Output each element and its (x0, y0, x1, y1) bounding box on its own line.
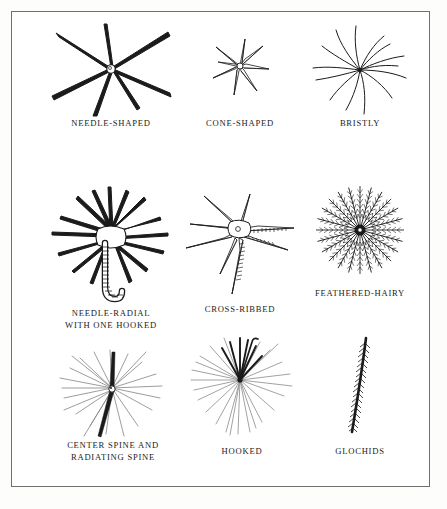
caption-line: NEEDLE-SHAPED (46, 118, 176, 130)
caption-line: NEEDLE-RADIAL (40, 308, 182, 320)
figure-hooked (190, 336, 294, 436)
needle-shaped-drawing (46, 20, 176, 118)
caption-hooked: HOOKED (190, 446, 294, 458)
caption-center-spine-and-radiating-spine: CENTER SPINE AND RADIATING SPINE (40, 440, 186, 463)
figure-glochids (332, 336, 388, 442)
caption-line: FEATHERED-HAIRY (305, 288, 415, 300)
caption-line: WITH ONE HOOKED (40, 320, 182, 332)
caption-needle-radial-with-one-hooked: NEEDLE-RADIAL WITH ONE HOOKED (40, 308, 182, 331)
caption-glochids: GLOCHIDS (310, 446, 410, 458)
figure-needle-radial-with-one-hooked (48, 183, 174, 305)
caption-feathered-hairy: FEATHERED-HAIRY (305, 288, 415, 300)
caption-line: CROSS-RIBBED (190, 304, 290, 316)
feathered-hairy-drawing (308, 184, 412, 280)
caption-cone-shaped: CONE-SHAPED (190, 118, 290, 130)
figure-center-spine-and-radiating-spine (58, 348, 166, 440)
figure-bristly (310, 24, 410, 118)
caption-line: GLOCHIDS (310, 446, 410, 458)
caption-line: BRISTLY (310, 118, 410, 130)
bristly-drawing (310, 24, 410, 118)
figure-cross-ribbed (182, 190, 296, 300)
caption-line: CENTER SPINE AND (40, 440, 186, 452)
caption-cross-ribbed: CROSS-RIBBED (190, 304, 290, 316)
figure-needle-shaped (46, 20, 176, 118)
hooked-drawing (190, 336, 294, 436)
caption-needle-shaped: NEEDLE-SHAPED (46, 118, 176, 130)
figure-cone-shaped (205, 33, 275, 105)
figure-feathered-hairy (308, 184, 412, 280)
caption-line: HOOKED (190, 446, 294, 458)
cross-ribbed-drawing (182, 190, 296, 300)
caption-line: CONE-SHAPED (190, 118, 290, 130)
caption-line: RADIATING SPINE (40, 452, 186, 464)
caption-bristly: BRISTLY (310, 118, 410, 130)
needle-radial-hooked-drawing (48, 183, 174, 305)
glochids-drawing (332, 336, 388, 442)
cone-shaped-drawing (205, 33, 275, 105)
center-spine-drawing (58, 348, 166, 440)
cactus-spine-plate: NEEDLE-SHAPED CONE-SHAPED (0, 0, 447, 509)
